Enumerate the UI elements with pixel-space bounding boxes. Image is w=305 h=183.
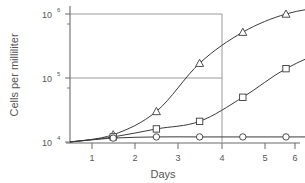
circle-marker-day-4 bbox=[240, 134, 246, 140]
square-marker-day-2 bbox=[153, 126, 159, 132]
chart-figure: 10 6 10 5 10 4 1 2 3 4 5 6 Days Cells pe… bbox=[0, 0, 305, 183]
x-tick-label-4: 4 bbox=[219, 153, 224, 163]
x-axis-title: Days bbox=[150, 168, 176, 180]
square-marker-day-5 bbox=[283, 65, 289, 71]
x-tick-label-6: 6 bbox=[292, 153, 297, 163]
circle-marker-day-3 bbox=[196, 134, 202, 140]
y-tick-label-1e4-base: 10 bbox=[42, 138, 52, 148]
growth-curve-chart: 10 6 10 5 10 4 1 2 3 4 5 6 Days Cells pe… bbox=[0, 0, 305, 183]
x-tick-label-5: 5 bbox=[262, 153, 267, 163]
y-tick-label-1e5-base: 10 bbox=[42, 74, 52, 84]
square-marker-day-4 bbox=[240, 94, 246, 100]
x-tick-label-1: 1 bbox=[89, 153, 94, 163]
y-axis-title: Cells per milliliter bbox=[8, 33, 20, 116]
square-marker-day-3 bbox=[196, 118, 202, 124]
circle-marker-day-1 bbox=[110, 135, 116, 141]
x-tick-label-2: 2 bbox=[132, 153, 137, 163]
x-tick-label-3: 3 bbox=[175, 153, 180, 163]
y-tick-label-1e6-base: 10 bbox=[42, 10, 52, 20]
circle-marker-day-2 bbox=[153, 134, 159, 140]
circle-marker-day-5 bbox=[283, 134, 289, 140]
chart-background bbox=[0, 0, 305, 183]
